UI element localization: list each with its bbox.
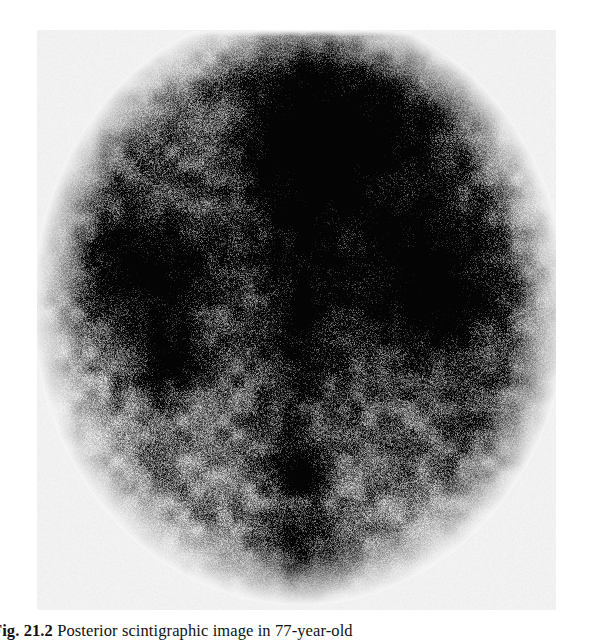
scintigram-image [37, 30, 556, 610]
caption-text: Posterior scintigraphic image in 77-year… [57, 624, 353, 640]
caption-label: Fig. 21.2 [0, 624, 53, 640]
figure-caption: Fig. 21.2 Posterior scintigraphic image … [0, 624, 593, 643]
figure-page: Fig. 21.2 Posterior scintigraphic image … [0, 0, 593, 643]
scintigram-figure [37, 30, 556, 610]
caption-line: Fig. 21.2 Posterior scintigraphic image … [0, 624, 353, 641]
